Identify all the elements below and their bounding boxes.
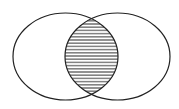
venn-diagram: [0, 0, 179, 109]
